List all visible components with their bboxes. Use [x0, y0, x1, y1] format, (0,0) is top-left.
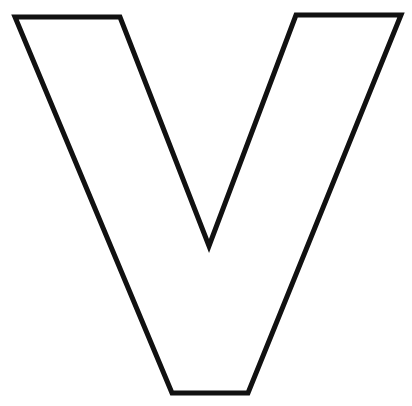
letter-v-outline-icon — [0, 0, 412, 406]
letter-v-shape — [15, 15, 401, 393]
letter-v-canvas: V — [0, 0, 412, 406]
